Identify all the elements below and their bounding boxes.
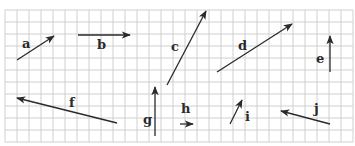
grid	[5, 10, 353, 142]
vector-label: c	[171, 39, 179, 54]
vector-a: a	[17, 36, 54, 60]
vector-label: f	[69, 95, 76, 110]
vector-h: h	[180, 101, 193, 124]
vector-label: i	[245, 109, 250, 124]
vector-label: a	[22, 36, 31, 51]
vector-e: e	[316, 36, 330, 72]
vector-b: b	[78, 35, 130, 52]
vector-label: g	[143, 112, 152, 127]
vector-label: e	[316, 51, 324, 66]
vector-label: b	[97, 37, 106, 52]
vector-label: d	[238, 38, 247, 53]
vector-label: h	[181, 101, 191, 116]
vector-label: j	[313, 101, 319, 116]
vector-grid-diagram: abcdefghij	[0, 0, 355, 146]
arrow-icon	[17, 98, 117, 123]
vector-f: f	[17, 95, 117, 123]
arrow-icon	[230, 100, 242, 124]
